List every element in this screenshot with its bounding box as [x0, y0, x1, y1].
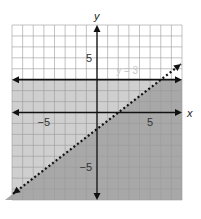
line-label-y-equals-3: y = 3 — [116, 65, 138, 76]
y-tick-label-neg5: −5 — [79, 161, 92, 173]
shading-layer — [5, 80, 182, 200]
inequality-graph: −5 5 5 −5 x y y = 3 — [0, 0, 201, 219]
x-tick-label-5: 5 — [147, 116, 153, 128]
y-axis-arrow-up — [94, 25, 101, 32]
y-axis-label: y — [93, 10, 101, 22]
x-axis-label: x — [186, 107, 193, 119]
x-tick-label-neg5: −5 — [38, 116, 51, 128]
y-tick-label-5: 5 — [86, 52, 92, 64]
